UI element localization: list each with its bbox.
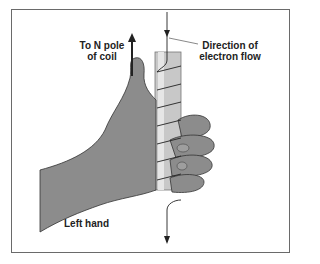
electron-flow-label: Direction of electron flow: [194, 40, 266, 62]
left-hand: [40, 58, 214, 232]
north-pole-label: To N pole of coil: [74, 40, 130, 62]
left-hand-label: Left hand: [64, 218, 109, 229]
